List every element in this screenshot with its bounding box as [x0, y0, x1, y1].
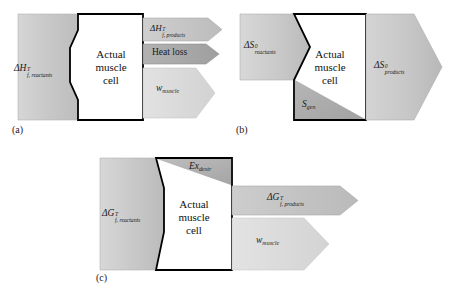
panel-c-exergy-balance: ΔGTf, reactants Exdestr Actual muscle ce… [92, 140, 382, 297]
shape-work-muscle-arrow-c [232, 218, 329, 270]
subscript-reactants: reactants [255, 49, 276, 55]
label-entropy-reactants: ΔS0reactants [244, 40, 288, 51]
subscript-f-reactants: f, reactants [27, 72, 52, 78]
label-enthalpy-products: ΔHTf, products [150, 23, 192, 33]
symbol-delta-g: ΔG [102, 208, 114, 218]
subscript-muscle: muscle [162, 88, 179, 94]
label-entropy-generation: Sgen [302, 99, 316, 110]
cell-label-line-3: cell [165, 224, 223, 237]
label-gibbs-products: ΔGTf, products [267, 192, 311, 203]
subscript-f-products: f, products [280, 201, 304, 207]
cell-label-line-1: Actual [165, 198, 223, 211]
label-work-muscle-a: wmuscle [156, 83, 179, 94]
panel-b-entropy-balance: ΔS0reactants Actual muscle cell Sgen ΔS0… [228, 0, 461, 140]
subscript-f-products: f, products [162, 32, 185, 38]
cell-label-line-3: cell [301, 74, 359, 87]
subscript-gen: gen [307, 104, 316, 110]
subscript-f-reactants: f, reactants [115, 217, 140, 223]
symbol-delta-g-products: ΔG [267, 192, 279, 202]
label-heat-loss: Heat loss [152, 47, 187, 58]
symbol-delta-s-products: ΔS [374, 60, 384, 70]
panel-a-enthalpy-balance: ΔHTf, reactants Actual muscle cell ΔHTf,… [0, 0, 230, 140]
cell-label-b: Actual muscle cell [301, 48, 359, 87]
label-enthalpy-reactants: ΔHTf, reactants [14, 63, 58, 74]
label-exergy-destruction: Exdestr [189, 161, 211, 172]
cell-label-line-1: Actual [301, 48, 359, 61]
panel-tag-a: (a) [12, 124, 23, 135]
label-gibbs-reactants: ΔGTf, reactants [102, 208, 148, 219]
cell-label-c: Actual muscle cell [165, 198, 223, 237]
cell-label-line-2: muscle [165, 211, 223, 224]
symbol-delta-h-products: ΔH [150, 23, 162, 33]
subscript-destr: destr [199, 166, 211, 172]
panel-tag-c: (c) [96, 272, 107, 283]
symbol-delta-s: ΔS [244, 40, 254, 50]
cell-label-line-2: muscle [301, 61, 359, 74]
panel-tag-b: (b) [236, 124, 248, 135]
symbol-delta-h: ΔH [14, 63, 26, 73]
subscript-muscle: muscle [262, 240, 279, 246]
figure-canvas: ΔHTf, reactants Actual muscle cell ΔHTf,… [0, 0, 461, 297]
label-entropy-products: ΔS0products [374, 60, 416, 71]
subscript-products: products [385, 69, 405, 75]
symbol-ex: Ex [189, 161, 199, 171]
cell-label-line-2: muscle [82, 61, 140, 74]
cell-label-line-1: Actual [82, 48, 140, 61]
cell-label-a: Actual muscle cell [82, 48, 140, 87]
label-work-muscle-c: wmuscle [256, 235, 279, 246]
cell-label-line-3: cell [82, 74, 140, 87]
